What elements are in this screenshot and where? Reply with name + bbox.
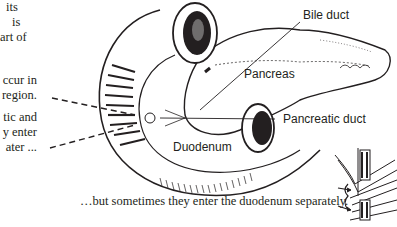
- label-bile-duct: Bile duct: [303, 8, 349, 22]
- duodenum-bottom-hatch: [160, 173, 252, 193]
- label-duodenum: Duodenum: [173, 140, 232, 154]
- inset-separate-ducts: [335, 148, 397, 220]
- caption-text: …but sometimes they enter the duodenum s…: [80, 194, 348, 209]
- label-pancreas: Pancreas: [244, 67, 295, 81]
- label-pancreatic-duct: Pancreatic duct: [283, 112, 366, 126]
- duodenum-lower-lumen: [252, 111, 272, 145]
